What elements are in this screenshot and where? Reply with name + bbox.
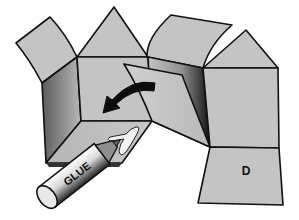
box-net-folding-diagram: D GLUE: [0, 0, 299, 220]
left-roof-triangle: [77, 7, 148, 57]
diagram-canvas: D GLUE: [0, 0, 299, 220]
panel-d-label: D: [242, 164, 251, 178]
right-front-face: [203, 68, 279, 148]
panel-d: [198, 147, 283, 205]
